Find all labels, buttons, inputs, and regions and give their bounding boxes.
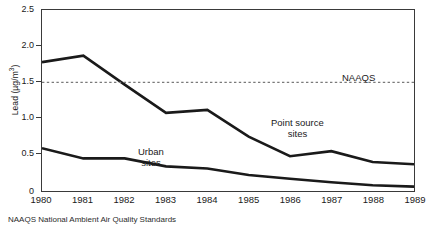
x-tick-label-1988: 1988 [353,194,393,206]
point-source-annotation: Point sourcesites [271,117,324,139]
y-tick-label-2_5: 2.5 [12,5,34,14]
lead-concentration-chart: Lead (µg/m3) 2.5 2.0 1.5 1.0 0.5 0 NAAQS… [0,0,426,225]
chart-lines-svg [42,10,414,191]
urban-sites-annotation-line2: sites [138,157,164,168]
y-tick-label-1_5: 1.5 [12,77,34,86]
x-tick-label-1987: 1987 [312,194,352,206]
x-tick-label-1980: 1980 [21,194,61,206]
x-tick-label-1983: 1983 [146,194,186,206]
x-tick-label-1982: 1982 [104,194,144,206]
series-line-urban-sites [42,148,414,186]
y-axis-tick-labels: 2.5 2.0 1.5 1.0 0.5 0 [10,0,34,225]
naaqs-annotation-label: NAAQS [342,72,375,83]
naaqs-annotation: NAAQS [342,72,375,83]
y-tick-label-2_0: 2.0 [12,41,34,50]
x-axis-tick-labels: 1980 1981 1982 1983 1984 1985 1986 1987 … [41,194,415,208]
x-tick-label-1984: 1984 [187,194,227,206]
x-tick-label-1986: 1986 [270,194,310,206]
urban-sites-annotation: Urbansites [138,146,164,168]
point-source-annotation-line1: Point source [271,117,324,128]
y-tick-label-1_0: 1.0 [12,113,34,122]
point-source-annotation-line2: sites [271,128,324,139]
footnote: NAAQS National Ambient Air Quality Stand… [8,215,176,225]
x-tick-label-1981: 1981 [63,194,103,206]
x-tick-label-1989: 1989 [395,194,426,206]
y-tick-label-0_5: 0.5 [12,149,34,158]
plot-area: NAAQS Point sourcesites Urbansites [41,9,415,192]
x-tick-label-1985: 1985 [229,194,269,206]
urban-sites-annotation-line1: Urban [138,146,164,157]
